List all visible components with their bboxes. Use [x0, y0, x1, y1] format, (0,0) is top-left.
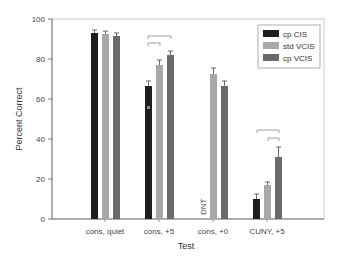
- bracket: [257, 130, 279, 133]
- legend: cp CIS std VCIS cp VCIS: [258, 25, 320, 68]
- y-tick-label: 100: [32, 15, 46, 24]
- bar-cp-vcis: [113, 36, 120, 219]
- bar-cp-vcis: [275, 157, 282, 219]
- bar-cp-vcis: [167, 55, 174, 219]
- dnt-annotation: DNT: [199, 198, 208, 215]
- point-marker: [147, 106, 150, 109]
- bracket: [148, 43, 160, 46]
- bracket: [268, 138, 279, 141]
- bar-std-vcis: [156, 65, 163, 219]
- y-tick-label: 0: [41, 215, 46, 224]
- x-tick-labels: cons, quiet cons, +5 cons, +0 CUNY, +5: [86, 227, 286, 236]
- bar-cp-cis: [145, 86, 152, 219]
- legend-label: std VCIS: [283, 42, 315, 51]
- category-label: cons, +0: [198, 227, 229, 236]
- bar-cp-vcis: [221, 86, 228, 219]
- bar-cp-cis: [253, 199, 260, 219]
- y-axis-title: Percent Correct: [14, 87, 24, 151]
- legend-label: cp VCIS: [283, 54, 312, 63]
- category-label: CUNY, +5: [249, 227, 285, 236]
- category-label: cons, quiet: [86, 227, 125, 236]
- bar-std-vcis: [210, 74, 217, 219]
- bars: [91, 33, 282, 219]
- category-label: cons, +5: [144, 227, 175, 236]
- y-tick-labels: 0 20 40 60 80 100: [32, 15, 46, 224]
- x-axis-title: Test: [178, 241, 195, 251]
- bracket: [148, 36, 171, 39]
- bar-chart: 0 20 40 60 80 100 Percent Correct cons, …: [0, 0, 337, 262]
- bar-std-vcis: [102, 34, 109, 219]
- legend-label: cp CIS: [283, 30, 307, 39]
- y-tick-label: 60: [36, 95, 45, 104]
- legend-swatch-cp-cis: [263, 30, 279, 37]
- y-ticks: [48, 19, 52, 219]
- bar-cp-cis: [91, 33, 98, 219]
- legend-swatch-cp-vcis: [263, 54, 279, 61]
- y-tick-label: 80: [36, 55, 45, 64]
- y-tick-label: 40: [36, 135, 45, 144]
- error-bars: [92, 30, 281, 199]
- bar-std-vcis: [264, 185, 271, 219]
- y-tick-label: 20: [36, 175, 45, 184]
- legend-swatch-std-vcis: [263, 42, 279, 49]
